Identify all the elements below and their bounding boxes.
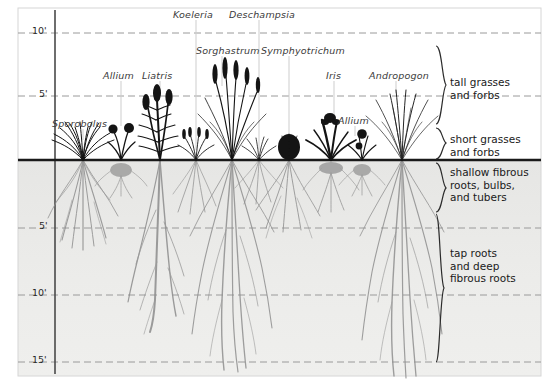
species-label-sorghastrum: Sorghastrum <box>196 45 260 56</box>
zone-label-tap-roots-line1: tap roots <box>450 247 516 260</box>
zone-label-tap-roots-line2: and deep <box>450 260 516 273</box>
allium-right-umbel-1 <box>357 129 367 139</box>
axis-label-below-10ft: 10' <box>32 287 47 298</box>
zone-label-tap-roots-line3: fibrous roots <box>450 272 516 285</box>
zone-label-short-grasses-line2: and forbs <box>450 146 521 159</box>
zone-label-shallow-fibrous: shallow fibrous roots, bulbs, and tubers <box>450 166 529 204</box>
species-label-iris: Iris <box>326 70 341 81</box>
species-label-symphyotrichum: Symphyotrichum <box>261 45 345 56</box>
zone-label-shallow-fibrous-line1: shallow fibrous <box>450 166 529 179</box>
species-label-liatris: Liatris <box>142 70 172 81</box>
zone-label-short-grasses-line1: short grasses <box>450 133 521 146</box>
allium-left-umbel-1 <box>108 124 117 133</box>
zone-label-shallow-fibrous-line2: roots, bulbs, <box>450 179 529 192</box>
species-label-allium-left: Allium <box>103 70 134 81</box>
species-label-koeleria: Koeleria <box>173 9 213 20</box>
axis-label-below-5ft: 5' <box>39 220 48 231</box>
prairie-root-depth-figure: 10' 5' 5' 10' 15' Koeleria Deschampsia S… <box>0 0 559 386</box>
zone-label-tall-grasses-line2: and forbs <box>450 89 510 102</box>
allium-left-umbel-2 <box>124 123 134 133</box>
zone-label-tall-grasses: tall grasses and forbs <box>450 76 510 101</box>
zone-label-short-grasses: short grasses and forbs <box>450 133 521 158</box>
zone-label-tap-roots: tap roots and deep fibrous roots <box>450 247 516 285</box>
zone-label-tall-grasses-line1: tall grasses <box>450 76 510 89</box>
species-label-deschampsia: Deschampsia <box>229 9 295 20</box>
axis-label-above-10ft: 10' <box>32 25 47 36</box>
axis-label-above-5ft: 5' <box>39 88 48 99</box>
species-label-allium-right: Allium <box>338 115 369 126</box>
species-label-andropogon: Andropogon <box>369 70 429 81</box>
zone-label-shallow-fibrous-line3: and tubers <box>450 191 529 204</box>
species-label-sporobolus: Sporobolus <box>52 118 107 129</box>
allium-right-umbel-2 <box>356 143 363 150</box>
axis-label-below-15ft: 15' <box>32 354 47 365</box>
